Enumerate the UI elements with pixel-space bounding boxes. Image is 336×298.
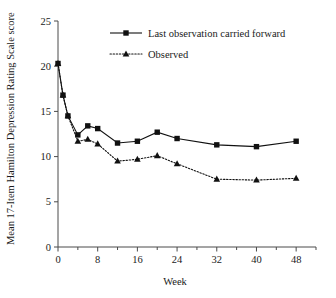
square-marker — [115, 140, 120, 145]
y-tick-label: 0 — [46, 242, 51, 253]
x-tick-label: 0 — [55, 254, 60, 265]
square-marker — [85, 123, 90, 128]
square-marker — [95, 126, 100, 131]
square-marker — [293, 139, 298, 144]
line-chart-svg: 0510152025 081624324048 Last observation… — [0, 0, 336, 298]
legend-label: Last observation carried forward — [148, 28, 286, 39]
y-axis-title: Mean 17-Item Hamilton Depression Rating … — [5, 12, 16, 245]
y-tick-label: 20 — [41, 61, 52, 72]
square-marker — [174, 136, 179, 141]
legend-label: Observed — [148, 49, 189, 60]
y-tick-label: 5 — [46, 196, 51, 207]
square-marker — [155, 129, 160, 134]
square-marker — [135, 139, 140, 144]
x-tick-label: 48 — [291, 254, 302, 265]
x-tick-label: 8 — [95, 254, 100, 265]
chart-background — [0, 0, 336, 298]
y-tick-label: 10 — [41, 151, 52, 162]
chart-figure: 0510152025 081624324048 Last observation… — [0, 0, 336, 298]
square-marker — [123, 30, 128, 35]
x-axis-title: Week — [163, 276, 187, 287]
square-marker — [214, 142, 219, 147]
y-tick-label: 25 — [41, 16, 52, 27]
x-tick-label: 24 — [172, 254, 183, 265]
x-tick-label: 16 — [132, 254, 143, 265]
x-tick-label: 32 — [212, 254, 223, 265]
y-tick-label: 15 — [41, 106, 52, 117]
square-marker — [254, 144, 259, 149]
x-tick-label: 40 — [251, 254, 262, 265]
